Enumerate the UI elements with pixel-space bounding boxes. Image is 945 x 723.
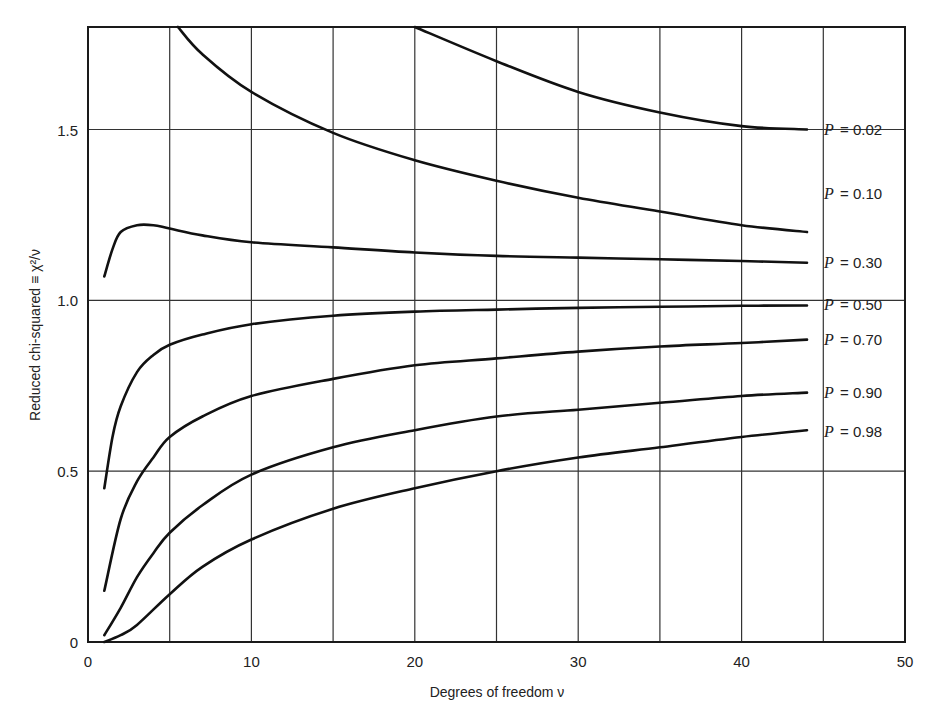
x-tick-label: 20 <box>406 653 423 670</box>
x-tick-labels: 01020304050 <box>84 653 914 670</box>
grid-lines <box>88 27 905 642</box>
curve-label: P = 0.02 <box>823 121 882 138</box>
p-value: = 0.70 <box>840 331 882 348</box>
p-symbol: P <box>823 121 834 138</box>
y-tick-labels: 00.51.01.5 <box>57 122 78 652</box>
p-symbol: P <box>823 254 834 271</box>
x-tick-label: 40 <box>733 653 750 670</box>
curve-010 <box>415 27 807 130</box>
curve-label: P = 0.98 <box>823 423 882 440</box>
p-symbol: P <box>823 384 834 401</box>
y-tick-label: 0 <box>70 634 78 651</box>
curve-050 <box>104 306 807 489</box>
p-symbol: P <box>823 423 834 440</box>
p-value: = 0.50 <box>840 296 882 313</box>
p-value: = 0.30 <box>840 254 882 271</box>
p-symbol: P <box>823 185 834 202</box>
curve-label: P = 0.30 <box>823 254 882 271</box>
curve-label: P = 0.50 <box>823 296 882 313</box>
x-tick-label: 0 <box>84 653 92 670</box>
curve-098 <box>104 430 807 642</box>
curve-label: P = 0.70 <box>823 331 882 348</box>
curve-030 <box>104 225 807 277</box>
y-axis-label: Reduced chi-squared ≡ χ²/ν <box>27 249 43 421</box>
y-tick-label: 0.5 <box>57 463 78 480</box>
x-tick-label: 10 <box>243 653 260 670</box>
x-tick-label: 30 <box>570 653 587 670</box>
y-tick-label: 1.0 <box>57 292 78 309</box>
p-symbol: P <box>823 331 834 348</box>
p-value: = 0.10 <box>840 185 882 202</box>
p-value: = 0.90 <box>840 384 882 401</box>
p-value: = 0.98 <box>840 423 882 440</box>
y-tick-label: 1.5 <box>57 122 78 139</box>
p-symbol: P <box>823 296 834 313</box>
x-axis-label: Degrees of freedom ν <box>430 684 565 700</box>
x-tick-label: 50 <box>897 653 914 670</box>
curve-090 <box>104 393 807 636</box>
chart-svg: P = 0.02P = 0.10P = 0.30P = 0.50P = 0.70… <box>0 0 945 723</box>
curve-labels: P = 0.02P = 0.10P = 0.30P = 0.50P = 0.70… <box>823 121 882 440</box>
curves <box>104 27 807 642</box>
curve-label: P = 0.10 <box>823 185 882 202</box>
curve-070 <box>104 340 807 591</box>
p-value: = 0.02 <box>840 121 882 138</box>
curve-label: P = 0.90 <box>823 384 882 401</box>
